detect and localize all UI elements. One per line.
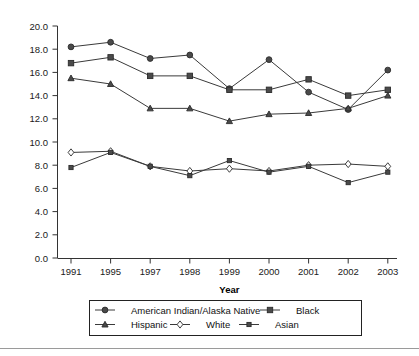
data-point-1997 xyxy=(148,164,152,168)
data-point-2000 xyxy=(266,57,272,63)
legend-label: Hispanic xyxy=(131,319,168,330)
data-point-1995 xyxy=(108,39,114,45)
x-axis-tick-labels: 1991 1995 1997 1998 1999 2000 2001 2002 … xyxy=(60,266,398,277)
x-axis-title: Year xyxy=(219,284,239,295)
data-point-1991 xyxy=(69,165,73,169)
data-point-2001 xyxy=(306,77,311,82)
data-point-1998 xyxy=(188,174,192,178)
data-point-2000 xyxy=(266,87,271,92)
legend-swatch-marker xyxy=(247,322,251,326)
y-tick-label-10: 10.0 xyxy=(30,137,49,148)
legend-label: American Indian/Alaska Native xyxy=(131,305,260,316)
data-point-1999 xyxy=(227,87,232,92)
y-tick-label-20: 20.0 xyxy=(30,21,49,32)
data-point-2003 xyxy=(386,170,390,174)
x-tick-label-1999: 1999 xyxy=(219,266,240,277)
data-point-1998 xyxy=(187,52,193,58)
data-point-1991 xyxy=(68,60,73,65)
y-tick-label-4: 4.0 xyxy=(35,206,48,217)
y-tick-label-2: 2.0 xyxy=(35,229,48,240)
legend-label: White xyxy=(206,319,230,330)
y-tick-label-14: 14.0 xyxy=(30,90,49,101)
legend-swatch-marker xyxy=(267,307,272,312)
data-point-2002 xyxy=(346,93,351,98)
data-point-1995 xyxy=(108,55,113,60)
y-tick-label-18: 18.0 xyxy=(30,44,49,55)
y-tick-label-0: 0.0 xyxy=(35,253,48,264)
legend-swatch-marker xyxy=(102,307,108,313)
x-tick-label-1997: 1997 xyxy=(140,266,161,277)
legend-label: Black xyxy=(296,305,319,316)
data-point-1995 xyxy=(109,150,113,154)
x-tick-label-2000: 2000 xyxy=(258,266,279,277)
x-tick-label-1995: 1995 xyxy=(100,266,121,277)
data-point-1999 xyxy=(227,158,231,162)
y-tick-label-12: 12.0 xyxy=(30,113,49,124)
y-tick-label-6: 6.0 xyxy=(35,183,48,194)
x-tick-label-2003: 2003 xyxy=(377,266,398,277)
data-point-2002 xyxy=(346,181,350,185)
data-point-2000 xyxy=(267,170,271,174)
line-chart-svg: 20.0 18.0 16.0 14.0 12.0 10.0 8.0 6.0 4.… xyxy=(0,0,419,356)
chart-figure: 20.0 18.0 16.0 14.0 12.0 10.0 8.0 6.0 4.… xyxy=(0,0,419,356)
legend-label: Asian xyxy=(275,319,299,330)
y-tick-label-8: 8.0 xyxy=(35,160,48,171)
x-tick-label-1991: 1991 xyxy=(60,266,81,277)
data-point-2001 xyxy=(306,89,312,95)
data-point-1997 xyxy=(147,56,153,62)
data-point-1991 xyxy=(68,44,74,50)
x-tick-label-2002: 2002 xyxy=(338,266,359,277)
data-point-1998 xyxy=(187,73,192,78)
y-tick-label-16: 16.0 xyxy=(30,67,49,78)
data-point-2003 xyxy=(385,67,391,73)
x-tick-label-2001: 2001 xyxy=(298,266,319,277)
chart-background xyxy=(0,0,419,356)
data-point-2001 xyxy=(307,164,311,168)
data-point-1997 xyxy=(148,73,153,78)
x-tick-label-1998: 1998 xyxy=(179,266,200,277)
